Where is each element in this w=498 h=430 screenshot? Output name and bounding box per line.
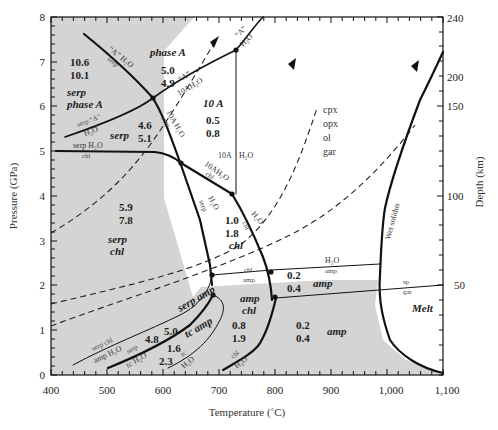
field-value: 4.9 xyxy=(161,77,175,89)
invariant-point xyxy=(150,95,155,100)
x-tick-label: 1,100 xyxy=(435,384,460,396)
y-tick-label: 5 xyxy=(40,145,46,157)
reaction-label: H₂O xyxy=(325,256,340,265)
reaction-label: serp H₂O xyxy=(73,141,103,150)
field-value: 0.8 xyxy=(206,127,220,139)
field-value: 0.4 xyxy=(296,332,310,344)
field-label: chl xyxy=(242,304,257,316)
field-label: serp xyxy=(107,233,127,245)
y2-axis-title: Depth (km) xyxy=(473,156,486,207)
field-value: 1.0 xyxy=(225,214,239,226)
x-tick-label: 700 xyxy=(211,384,228,396)
invariant-point xyxy=(233,47,238,52)
y2-tick-label: 200 xyxy=(447,71,464,83)
field-value: 5.0 xyxy=(164,325,178,337)
y2-tick-label: 50 xyxy=(454,279,466,291)
y-tick-label: 7 xyxy=(40,56,46,68)
field-label: amp xyxy=(313,277,333,289)
field-label: 10 A xyxy=(203,97,224,109)
field-value: 5.9 xyxy=(119,201,133,213)
y-tick-label: 4 xyxy=(40,190,46,202)
x-tick-label: 400 xyxy=(43,384,60,396)
field-value: 10.1 xyxy=(70,69,89,81)
field-value: 4.6 xyxy=(138,119,152,131)
y-tick-label: 6 xyxy=(40,100,46,112)
invariant-point xyxy=(178,160,183,165)
field-label: serp xyxy=(66,86,86,98)
x-tick-label: 800 xyxy=(267,384,284,396)
invariant-point xyxy=(272,294,277,299)
reaction-label: amp xyxy=(325,267,338,275)
y-tick-label: 1 xyxy=(40,324,46,336)
reaction-label: chl xyxy=(82,152,91,160)
field-label: amp xyxy=(240,292,260,304)
field-value: 2.3 xyxy=(159,355,173,367)
x-axis-title: Temperature (˚C) xyxy=(209,406,286,419)
y-tick-label: 0 xyxy=(40,369,46,381)
field-value: 0.2 xyxy=(287,269,301,281)
field-value: 10.6 xyxy=(70,56,90,68)
field-value: 4.8 xyxy=(145,333,159,345)
x-tick-label: 500 xyxy=(99,384,116,396)
assemblage-label: gar xyxy=(323,146,336,157)
field-label: phase A xyxy=(149,46,186,58)
field-value: 5.0 xyxy=(161,64,175,76)
reaction-label: sp xyxy=(403,278,410,286)
assemblage-label: ol xyxy=(323,132,331,143)
field-value: 0.5 xyxy=(206,114,220,126)
x-tick-label: 600 xyxy=(155,384,172,396)
field-value: 1.8 xyxy=(225,227,239,239)
y2-tick-label: 150 xyxy=(447,100,464,112)
y-tick-label: 2 xyxy=(40,279,46,291)
y2-tick-label: 100 xyxy=(447,190,464,202)
field-value: 0.8 xyxy=(232,319,246,331)
assemblage-label: cpx xyxy=(323,104,337,115)
field-label: chl xyxy=(110,245,125,257)
field-value: 7.8 xyxy=(119,214,133,226)
y-tick-label: 3 xyxy=(40,235,46,247)
reaction-label: 10A xyxy=(218,151,232,160)
field-value: 5.1 xyxy=(138,132,152,144)
field-value: 1.9 xyxy=(232,332,246,344)
y-axis-title: Pressure (GPa) xyxy=(7,163,20,230)
phase-diagram: 400 500 600 700 800 900 1,000 1,100 0 1 … xyxy=(0,0,498,430)
y2-tick-label: 240 xyxy=(447,12,464,24)
field-label: chl xyxy=(229,239,244,251)
invariant-point xyxy=(268,269,273,274)
reaction-label: chl xyxy=(244,266,253,274)
field-label: serp xyxy=(109,129,129,141)
field-value: 0.4 xyxy=(287,282,301,294)
field-label: Melt xyxy=(411,302,434,314)
y-tick-label: 8 xyxy=(40,11,46,23)
invariant-point xyxy=(209,272,214,277)
reaction-label: gar xyxy=(403,288,413,296)
field-label: amp xyxy=(327,325,347,337)
assemblage-label: opx xyxy=(323,118,338,129)
reaction-label: amp xyxy=(243,276,256,284)
field-value: 0.2 xyxy=(296,319,310,331)
field-label: phase A xyxy=(66,98,103,110)
invariant-point xyxy=(229,191,234,196)
reaction-label: H₂O xyxy=(239,151,254,160)
x-tick-label: 1,000 xyxy=(379,384,404,396)
x-tick-label: 900 xyxy=(323,384,340,396)
